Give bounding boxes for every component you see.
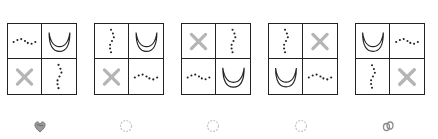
cell-tr (390, 24, 424, 59)
cell-br (216, 59, 250, 94)
answer-option-2[interactable] (118, 118, 134, 134)
answer-option-3[interactable] (205, 118, 221, 134)
cell-br (129, 59, 163, 94)
cell-br (42, 59, 76, 94)
answer-option-5[interactable] (380, 118, 396, 134)
cell-br (303, 59, 337, 94)
cell-tl (182, 24, 216, 59)
panel-4 (268, 23, 338, 95)
cell-tr (303, 24, 337, 59)
cell-br (390, 59, 424, 94)
cell-tr (216, 24, 250, 59)
cell-tl (95, 24, 129, 59)
cell-tl (269, 24, 303, 59)
cell-bl (8, 59, 42, 94)
heart-scribble-icon (32, 119, 48, 138)
radio-circle-icon (293, 119, 309, 138)
radio-circle-icon (118, 119, 134, 138)
panel-1 (7, 23, 77, 95)
panel-2 (94, 23, 164, 95)
cell-bl (95, 59, 129, 94)
cell-bl (182, 59, 216, 94)
cell-tl (8, 24, 42, 59)
answer-option-1[interactable] (32, 118, 48, 134)
cell-bl (269, 59, 303, 94)
panel-3 (181, 23, 251, 95)
cell-bl (356, 59, 390, 94)
cell-tr (42, 24, 76, 59)
answer-option-4[interactable] (293, 118, 309, 134)
panel-5 (355, 23, 425, 95)
radio-circle-icon (205, 119, 221, 138)
cell-tl (356, 24, 390, 59)
scribble-icon (380, 119, 396, 138)
cell-tr (129, 24, 163, 59)
